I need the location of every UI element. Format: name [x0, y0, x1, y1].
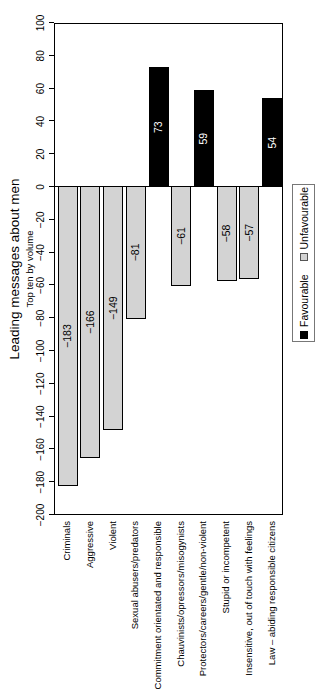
category-label-1: Aggressive [84, 521, 95, 568]
value-axis-tick [49, 284, 54, 285]
legend-label-unfavourable: Unfavourable [298, 187, 310, 249]
value-axis-tick-label: 100 [35, 1, 47, 45]
bar-unfavourable-7: −58 [217, 186, 237, 281]
bar-value-label: −166 [85, 310, 96, 334]
legend: Favourable Unfavourable [292, 184, 315, 342]
bar-unfavourable-2: −149 [103, 186, 123, 430]
bar-value-label: −57 [244, 224, 255, 242]
value-axis-tick [49, 252, 54, 253]
bar-unfavourable-3: −81 [126, 186, 146, 319]
category-label-2: Violent [107, 521, 118, 550]
bar-value-label: −183 [62, 324, 73, 348]
category-label-5: Chauvinists/opressors/misogynists [175, 521, 186, 667]
category-label-8: Insensitive, out of touch with feelings [243, 521, 254, 676]
category-label-3: Sexual abusers/predators [129, 521, 140, 629]
bar-unfavourable-5: −61 [171, 186, 191, 286]
bar-value-label: −61 [176, 227, 187, 245]
plot-area: −183−166−149−8173−6159−58−5754 [54, 23, 283, 515]
value-axis-tick [49, 448, 54, 449]
bar-value-label: 54 [267, 137, 278, 149]
value-axis-tick [49, 88, 54, 89]
value-axis-tick [49, 153, 54, 154]
legend-item-unfavourable: Unfavourable [298, 187, 310, 261]
chart-title: Leading messages about men [6, 23, 23, 515]
bar-unfavourable-8: −57 [239, 186, 259, 279]
category-label-0: Criminals [61, 521, 72, 561]
chart-canvas-rotated: Leading messages about men Top ten by vo… [0, 0, 320, 692]
value-axis-tick [49, 514, 54, 515]
favourable-swatch-icon [300, 331, 308, 339]
value-axis-tick [49, 383, 54, 384]
value-axis-tick [49, 350, 54, 351]
chart-figure: Leading messages about men Top ten by vo… [0, 0, 320, 692]
bar-value-label: −58 [221, 225, 232, 243]
bar-value-label: −81 [130, 244, 141, 262]
legend-label-favourable: Favourable [298, 274, 310, 327]
bar-value-label: 73 [153, 121, 164, 133]
value-axis-tick [49, 481, 54, 482]
bar-favourable-6: 59 [194, 90, 214, 187]
value-axis-tick [49, 55, 54, 56]
bar-value-label: 59 [198, 133, 209, 145]
legend-item-favourable: Favourable [298, 274, 310, 339]
bar-value-label: −149 [108, 296, 119, 320]
value-axis-tick [49, 219, 54, 220]
value-axis-tick [49, 416, 54, 417]
bar-unfavourable-1: −166 [80, 186, 100, 458]
bar-favourable-9: 54 [262, 98, 282, 187]
bar-unfavourable-0: −183 [58, 186, 78, 486]
value-axis-tick [49, 22, 54, 23]
value-axis-tick [49, 317, 54, 318]
category-label-9: Law – abiding responsible citizens [266, 521, 277, 665]
category-label-6: Protectors/careers/gentle/non-violent [197, 521, 208, 676]
category-label-4: Commitment orientated and responsible [152, 521, 163, 689]
value-axis-tick [49, 120, 54, 121]
value-axis-tick [49, 186, 54, 187]
unfavourable-swatch-icon [300, 253, 308, 261]
category-label-7: Stupid or incompetent [220, 521, 231, 613]
bar-favourable-4: 73 [149, 67, 169, 187]
